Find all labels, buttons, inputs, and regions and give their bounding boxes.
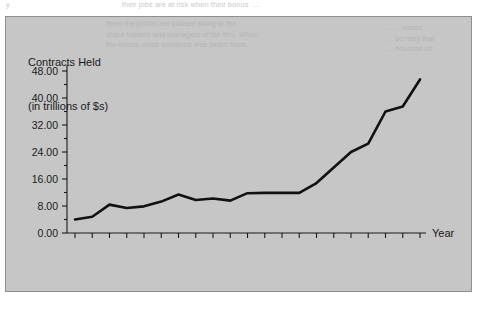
y-axis-tick-label: 40.00 bbox=[32, 92, 58, 104]
chart-panel: them the profits are passed along to the… bbox=[5, 16, 472, 292]
y-axis-tick-label: 24.00 bbox=[32, 146, 58, 158]
page-root: y their jobs are at risk when their bonu… bbox=[0, 0, 483, 310]
data-series-line bbox=[75, 79, 420, 219]
background-text-top: y their jobs are at risk when their bonu… bbox=[6, 0, 476, 10]
y-axis-tick-label: 16.00 bbox=[32, 173, 58, 185]
y-axis-tick-label: 48.00 bbox=[32, 65, 58, 77]
y-axis-tick-label: 32.00 bbox=[32, 119, 58, 131]
line-chart: 0.008.0016.0024.0032.0040.0048.00Dec-92D… bbox=[6, 17, 472, 292]
y-axis-tick-label: 8.00 bbox=[38, 200, 59, 212]
y-axis-tick-label: 0.00 bbox=[38, 227, 59, 239]
x-axis-title: Year bbox=[432, 227, 455, 239]
